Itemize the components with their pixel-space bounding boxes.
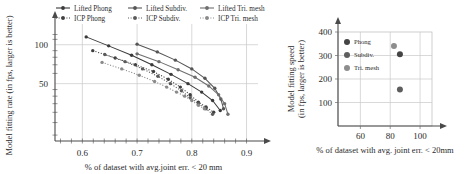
data-point	[190, 67, 193, 70]
svg-text:0.7: 0.7	[131, 148, 143, 158]
data-point	[135, 42, 138, 45]
data-point	[123, 60, 126, 63]
data-point	[169, 73, 172, 76]
left-chart-panel: Lifted PhongLifted Subdiv.Lifted Tri. me…	[0, 0, 284, 174]
data-point	[156, 75, 159, 78]
svg-text:0.9: 0.9	[241, 148, 253, 158]
y-axis-title-line1: Model fitting speed	[286, 45, 296, 112]
svg-text:400: 400	[319, 27, 333, 37]
data-point	[197, 104, 200, 107]
x-axis-title: % of dataset with avg. joint err. < 20mm	[316, 145, 454, 155]
series-line	[137, 54, 228, 114]
data-point	[175, 90, 178, 93]
legend-label: ICP Tri. mesh	[218, 15, 258, 23]
svg-text:0.6: 0.6	[77, 148, 89, 158]
data-point	[153, 80, 156, 83]
legend-label: Lifted Phong	[74, 5, 112, 13]
legend-marker	[344, 65, 350, 71]
data-point	[223, 102, 226, 105]
data-point	[91, 49, 94, 52]
data-point	[213, 87, 216, 90]
data-point	[152, 70, 155, 73]
svg-text:60: 60	[356, 131, 366, 141]
svg-text:50: 50	[39, 79, 49, 89]
y-axis-title: Model fitting rate (in fps, larger is be…	[4, 15, 14, 155]
legend-label: Lifted Subdiv.	[146, 5, 187, 13]
data-point	[391, 43, 397, 49]
data-point	[211, 113, 214, 116]
data-point	[150, 63, 153, 66]
data-point	[397, 51, 403, 57]
data-point	[183, 94, 186, 97]
figure-root: Lifted PhongLifted Subdiv.Lifted Tri. me…	[0, 0, 469, 174]
data-point	[169, 82, 172, 85]
series-line	[102, 62, 204, 108]
data-point	[120, 67, 123, 70]
data-point	[103, 53, 106, 56]
data-point	[226, 113, 229, 116]
data-point	[156, 50, 159, 53]
svg-text:100: 100	[35, 40, 49, 50]
right-chart-panel: 1002003004006080100PhongSubdiv.Tri. mesh…	[284, 0, 469, 174]
data-point	[203, 107, 206, 110]
svg-text:100: 100	[413, 131, 427, 141]
data-point	[219, 109, 222, 112]
data-point	[217, 93, 220, 96]
legend-label: ICP Phong	[74, 15, 105, 23]
data-point	[107, 44, 110, 47]
series-line	[105, 55, 213, 115]
data-point	[130, 53, 133, 56]
data-point	[190, 99, 193, 102]
svg-text:80: 80	[386, 131, 396, 141]
data-point	[113, 56, 116, 59]
legend-label: Subdiv.	[354, 51, 374, 58]
legend-label: Lifted Tri. mesh	[218, 5, 265, 13]
legend-label: Phong	[354, 38, 372, 45]
data-point	[397, 87, 403, 93]
data-point	[84, 35, 87, 38]
left-chart-svg: Lifted PhongLifted Subdiv.Lifted Tri. me…	[0, 0, 284, 174]
svg-text:200: 200	[319, 74, 333, 84]
legend-marker	[344, 52, 350, 58]
data-point	[211, 99, 214, 102]
data-point	[188, 96, 191, 99]
data-point	[167, 78, 170, 81]
data-point	[186, 82, 189, 85]
legend-marker	[344, 39, 350, 45]
svg-text:0.8: 0.8	[186, 148, 198, 158]
data-point	[193, 76, 196, 79]
data-point	[100, 61, 103, 64]
data-point	[207, 84, 210, 87]
data-point	[174, 58, 177, 61]
data-point	[141, 67, 144, 70]
legend-label: Tri. mesh	[354, 64, 380, 71]
data-point	[138, 74, 141, 77]
data-point	[179, 85, 182, 88]
data-point	[222, 107, 225, 110]
y-axis-title-line2: (in fps, larger is better)	[296, 40, 306, 118]
data-point	[176, 68, 179, 71]
data-point	[135, 52, 138, 55]
data-point	[203, 77, 206, 80]
svg-text:100: 100	[319, 98, 333, 108]
series-line	[86, 37, 220, 111]
data-point	[157, 60, 160, 63]
data-point	[200, 90, 203, 93]
svg-text:300: 300	[319, 51, 333, 61]
legend-label: ICP Subdiv.	[146, 15, 181, 23]
data-point	[165, 85, 168, 88]
x-axis-title: % of dataset with avg.joint err. < 20 mm	[85, 162, 223, 172]
data-point	[180, 89, 183, 92]
right-chart-svg: 1002003004006080100PhongSubdiv.Tri. mesh…	[284, 0, 469, 174]
